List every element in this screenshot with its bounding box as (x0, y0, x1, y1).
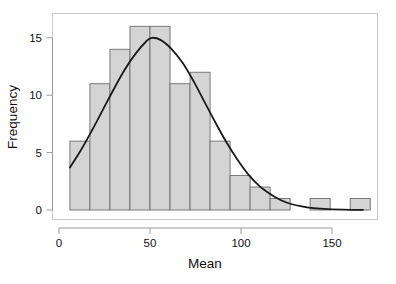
y-tick-label: 0 (36, 204, 42, 216)
x-tick-label: 100 (231, 237, 250, 249)
y-tick-label: 15 (29, 32, 42, 44)
y-axis-title: Frequency (5, 85, 20, 149)
histogram-plot: 051015 050100150 Mean Frequency (0, 0, 396, 284)
y-tick-label: 5 (36, 147, 42, 159)
x-tick-label: 150 (322, 237, 341, 249)
histogram-bar (210, 141, 230, 210)
histogram-bar (170, 84, 190, 210)
histogram-bar (350, 199, 370, 210)
x-axis-title: Mean (188, 256, 222, 271)
x-tick-label: 50 (144, 237, 157, 249)
y-tick-label: 10 (29, 89, 42, 101)
x-tick-label: 0 (56, 237, 62, 249)
histogram-bar (230, 176, 250, 210)
histogram-bar (130, 26, 150, 210)
histogram-bar (110, 49, 130, 210)
histogram-bar (150, 26, 170, 210)
histogram-bar (250, 187, 270, 210)
histogram-figure: 051015 050100150 Mean Frequency (0, 0, 396, 284)
